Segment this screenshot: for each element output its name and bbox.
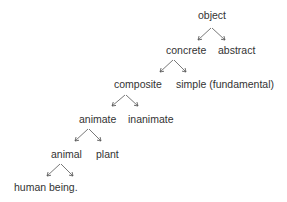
arrow-layer — [0, 0, 287, 202]
node-animate: animate — [79, 113, 116, 125]
arrow-animal-human — [47, 164, 60, 176]
node-object: object — [198, 9, 226, 21]
taxonomy-tree-diagram: object concrete abstract composite simpl… — [0, 0, 287, 202]
node-inanimate: inanimate — [128, 113, 174, 125]
arrow-object-concrete — [198, 28, 211, 40]
arrow-concrete-simple — [174, 60, 186, 72]
node-concrete: concrete — [166, 44, 206, 56]
arrow-animal-empty — [61, 164, 73, 176]
node-simple: simple (fundamental) — [176, 78, 274, 90]
node-animal: animal — [51, 148, 82, 160]
node-human-being: human being. — [14, 181, 78, 193]
arrow-concrete-composite — [160, 60, 173, 72]
arrow-composite-inanimate — [126, 95, 138, 106]
node-plant: plant — [96, 148, 119, 160]
arrow-animate-plant — [89, 129, 101, 141]
node-composite: composite — [114, 78, 162, 90]
arrow-animate-animal — [75, 129, 88, 141]
arrow-object-abstract — [212, 28, 225, 40]
arrow-composite-animate — [112, 95, 125, 106]
node-abstract: abstract — [218, 44, 255, 56]
